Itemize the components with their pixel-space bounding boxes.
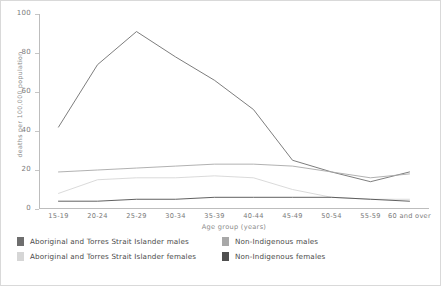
legend-swatch-icon bbox=[222, 252, 229, 261]
y-tick-label: 60 bbox=[21, 88, 31, 95]
y-tick-mark bbox=[35, 209, 39, 210]
chart-figure: 100806040200 deaths per 100,000 populati… bbox=[0, 0, 441, 286]
x-tick-label: 20-24 bbox=[87, 212, 108, 221]
legend-item-label: Aboriginal and Torres Strait Islander ma… bbox=[30, 237, 189, 246]
series-line bbox=[59, 32, 410, 182]
legend-item[interactable]: Aboriginal and Torres Strait Islander ma… bbox=[17, 235, 189, 247]
x-tick-label: 45-49 bbox=[282, 212, 303, 221]
x-tick-label: 15-19 bbox=[48, 212, 69, 221]
series-line bbox=[59, 176, 410, 199]
x-tick-label: 30-34 bbox=[165, 212, 186, 221]
y-tick-label: 80 bbox=[21, 49, 31, 56]
x-axis-title: Age group (years) bbox=[39, 223, 429, 232]
y-tick-label: 0 bbox=[26, 205, 31, 212]
x-tick-label: 25-29 bbox=[126, 212, 147, 221]
legend-item[interactable]: Non-Indigenous females bbox=[222, 250, 326, 262]
x-tick-label: 50-54 bbox=[321, 212, 342, 221]
plot-area bbox=[39, 14, 429, 209]
legend-item-label: Aboriginal and Torres Strait Islander fe… bbox=[30, 252, 196, 261]
series-lines bbox=[39, 14, 429, 209]
legend-item-label: Non-Indigenous females bbox=[235, 252, 326, 261]
x-tick-label: 35-39 bbox=[204, 212, 225, 221]
x-tick-label: 60 and over bbox=[388, 212, 431, 221]
legend-item-label: Non-Indigenous males bbox=[235, 237, 318, 246]
x-axis-line bbox=[39, 208, 429, 209]
legend-item[interactable]: Aboriginal and Torres Strait Islander fe… bbox=[17, 250, 196, 262]
legend-item[interactable]: Non-Indigenous males bbox=[222, 235, 318, 247]
x-tick-label: 40-44 bbox=[243, 212, 264, 221]
legend-swatch-icon bbox=[17, 252, 24, 261]
series-line bbox=[59, 164, 410, 178]
y-tick-label: 40 bbox=[21, 127, 31, 134]
legend-swatch-icon bbox=[222, 237, 229, 246]
y-axis-title: deaths per 100,000 population bbox=[16, 35, 23, 175]
series-line bbox=[59, 197, 410, 201]
y-tick-label: 100 bbox=[17, 10, 31, 17]
x-tick-label: 55-59 bbox=[360, 212, 381, 221]
chart-legend: Aboriginal and Torres Strait Islander ma… bbox=[17, 235, 429, 269]
y-tick-label: 20 bbox=[21, 166, 31, 173]
legend-swatch-icon bbox=[17, 237, 24, 246]
